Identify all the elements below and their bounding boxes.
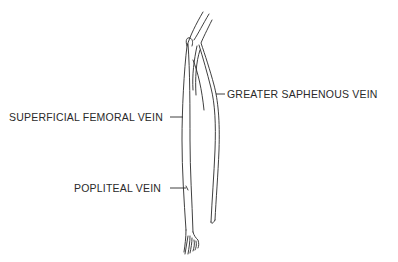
vein-drawing	[0, 0, 398, 262]
vein-diagram: GREATER SAPHENOUS VEIN SUPERFICIAL FEMOR…	[0, 0, 398, 262]
saphenous-outer	[201, 20, 219, 220]
saphenous-inner	[199, 45, 215, 222]
label-popliteal-vein: POPLITEAL VEIN	[74, 182, 161, 194]
femoral-vein-inner	[188, 44, 193, 232]
label-greater-saphenous-vein: GREATER SAPHENOUS VEIN	[227, 88, 378, 100]
label-superficial-femoral-vein: SUPERFICIAL FEMORAL VEIN	[9, 111, 163, 123]
